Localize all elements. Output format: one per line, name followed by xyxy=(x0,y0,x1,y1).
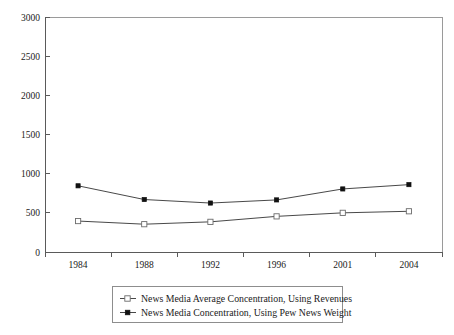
y-tick-label-1000: 1000 xyxy=(21,169,40,179)
legend-entry-revenues: News Media Average Concentration, Using … xyxy=(120,293,352,304)
x-tick-label-1984: 1984 xyxy=(69,260,88,270)
x-tick-marks xyxy=(45,252,442,257)
data-series-layer xyxy=(75,183,411,227)
filled-square-marker xyxy=(142,197,146,201)
chart-legend: News Media Average Concentration, Using … xyxy=(112,286,352,322)
series-line xyxy=(78,211,409,224)
filled-square-icon xyxy=(125,310,130,315)
filled-square-marker xyxy=(341,187,345,191)
y-axis-labels: 3000 2500 2000 1500 1000 500 0 xyxy=(21,13,40,258)
series-pew-news-weight xyxy=(76,183,411,206)
filled-square-marker xyxy=(274,198,278,202)
y-tick-label-1500: 1500 xyxy=(21,130,40,140)
x-tick-label-1996: 1996 xyxy=(267,260,286,270)
x-tick-label-1992: 1992 xyxy=(201,260,220,270)
y-tick-label-500: 500 xyxy=(26,208,41,218)
open-square-marker xyxy=(274,214,279,219)
legend-label-pew: News Media Concentration, Using Pew News… xyxy=(141,307,352,318)
x-tick-label-1988: 1988 xyxy=(135,260,154,270)
open-square-marker xyxy=(75,218,80,223)
filled-square-marker xyxy=(407,183,411,187)
line-chart: 3000 2500 2000 1500 1000 500 0 1984 1988… xyxy=(0,0,454,335)
open-square-icon xyxy=(125,296,130,301)
open-square-marker xyxy=(142,222,147,227)
series-revenues xyxy=(75,209,411,227)
y-tick-label-2000: 2000 xyxy=(21,91,40,101)
x-tick-label-2001: 2001 xyxy=(333,260,352,270)
y-tick-marks xyxy=(45,17,50,252)
y-tick-label-0: 0 xyxy=(35,248,40,258)
y-tick-label-3000: 3000 xyxy=(21,13,40,23)
open-square-marker xyxy=(406,209,411,214)
open-square-marker xyxy=(340,210,345,215)
filled-square-marker xyxy=(208,201,212,205)
chart-container: 3000 2500 2000 1500 1000 500 0 1984 1988… xyxy=(0,0,454,335)
x-axis-labels: 1984 1988 1992 1996 2001 2004 xyxy=(69,260,419,270)
legend-label-revenues: News Media Average Concentration, Using … xyxy=(141,293,352,304)
series-line xyxy=(78,185,409,203)
open-square-marker xyxy=(208,219,213,224)
x-tick-label-2004: 2004 xyxy=(399,260,418,270)
legend-entry-pew: News Media Concentration, Using Pew News… xyxy=(120,307,352,318)
y-tick-label-2500: 2500 xyxy=(21,52,40,62)
filled-square-marker xyxy=(76,184,80,188)
plot-frame xyxy=(45,17,442,252)
